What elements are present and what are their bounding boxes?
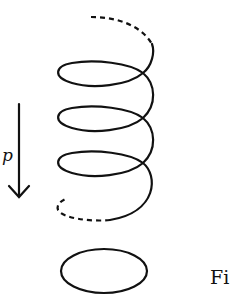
figure-caption: Fi xyxy=(210,266,229,288)
projection-ellipse xyxy=(61,249,147,293)
helix-top-dashed-segment xyxy=(91,17,152,44)
helix-diagram: p Fi xyxy=(0,0,230,299)
helix-bottom-dashed-segment xyxy=(58,198,110,221)
helix-coil xyxy=(58,44,153,220)
arrow-label-p: p xyxy=(2,145,13,165)
